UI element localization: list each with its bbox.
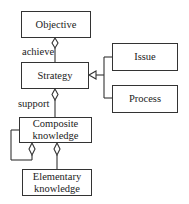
composite-label-line2: knowledge [32,130,78,142]
aggregation-diamond-strategy [52,89,58,100]
strategy-label: Strategy [38,70,73,82]
aggregation-diamond-composite [54,143,60,155]
strategy-node: Strategy [21,62,89,89]
aggregation-diamond-composite-self [29,143,35,155]
achieve-edge-label: achieve [22,46,54,58]
elementary-label-line2: knowledge [34,183,80,195]
composite-label-line1: Composite [33,118,79,130]
issue-label: Issue [134,51,156,63]
elementary-label-line1: Elementary [33,171,81,183]
issue-node: Issue [112,43,178,71]
support-edge-label: support [18,98,50,110]
elementary-knowledge-node: Elementary knowledge [22,169,92,196]
objective-node: Objective [21,11,91,38]
process-label: Process [129,93,161,105]
objective-label: Objective [36,19,77,31]
process-node: Process [112,85,178,113]
composite-knowledge-node: Composite knowledge [19,117,92,143]
generalization-triangle [89,71,96,79]
